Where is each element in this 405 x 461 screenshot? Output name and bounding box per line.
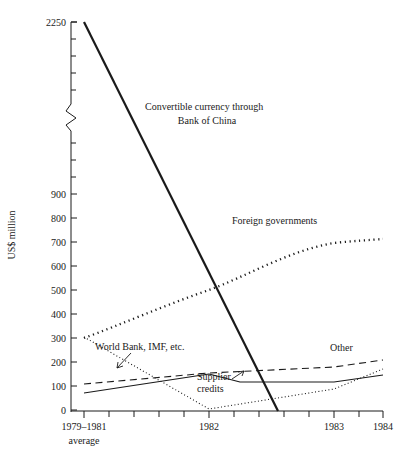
label-supplier-credits-line2: credits <box>197 383 224 394</box>
y-label-0: 0 <box>61 405 66 416</box>
y-label-200: 200 <box>51 357 66 368</box>
y-label-2250: 2250 <box>46 17 66 28</box>
y-axis-title: US$ million <box>6 210 17 259</box>
label-foreign-governments: Foreign governments <box>232 215 317 226</box>
x-label-1979-1981: 1979–1981 <box>62 421 107 432</box>
y-label-400: 400 <box>51 309 66 320</box>
series-supplier-credits <box>84 374 383 393</box>
arrow-world-bank-imf <box>117 353 131 368</box>
y-label-600: 600 <box>51 261 66 272</box>
y-label-700: 700 <box>51 237 66 248</box>
y-label-100: 100 <box>51 381 66 392</box>
y-axis <box>66 22 77 412</box>
y-tick-marks <box>71 22 77 410</box>
x-label-average: average <box>68 435 100 446</box>
x-label-1982: 1982 <box>199 421 219 432</box>
y-label-900: 900 <box>51 189 66 200</box>
y-tick-labels: 2250 900 800 700 600 500 400 300 200 100… <box>46 17 66 416</box>
label-convertible-currency-line2: Bank of China <box>178 115 237 126</box>
label-other: Other <box>330 342 353 353</box>
y-label-300: 300 <box>51 333 66 344</box>
y-label-800: 800 <box>51 213 66 224</box>
label-supplier-credits-line1: Supplier <box>197 371 232 382</box>
label-convertible-currency-line1: Convertible currency through <box>145 101 263 112</box>
x-label-1983: 1983 <box>324 421 344 432</box>
y-axis-break-zigzag <box>66 104 76 131</box>
chart-container: US$ million <box>0 0 405 461</box>
line-chart: US$ million <box>0 0 405 461</box>
y-label-500: 500 <box>51 285 66 296</box>
x-label-1984: 1984 <box>373 421 393 432</box>
x-tick-labels: 1979–1981 average 1982 1983 1984 <box>62 421 394 446</box>
x-axis <box>71 411 383 418</box>
label-world-bank-imf: World Bank, IMF, etc. <box>95 341 185 352</box>
